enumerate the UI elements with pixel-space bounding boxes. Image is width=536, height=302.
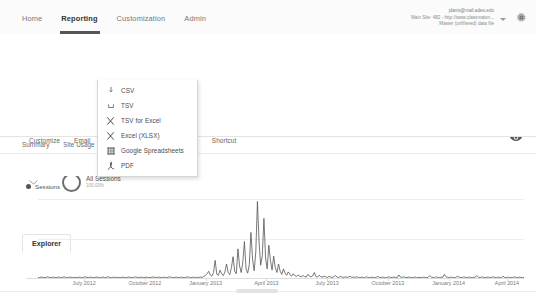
account-email: jdavis@mail.adeu.edu <box>411 8 494 14</box>
menu-item-excel-xlsx[interactable]: Excel (XLSX) <box>98 128 197 143</box>
x-axis-tick <box>206 278 207 281</box>
x-axis-tick <box>327 278 328 281</box>
menu-item-tsv[interactable]: TSV <box>98 98 197 113</box>
menu-item-csv-label: CSV <box>121 87 134 94</box>
chevron-down-icon[interactable] <box>500 18 506 21</box>
x-axis-tick <box>449 278 450 281</box>
excel-x-icon <box>104 115 117 126</box>
page-title-row: New vs Returning Apr 21, 2012 - May 21, … <box>0 34 536 64</box>
menu-item-google-spreadsheets-label: Google Spreadsheets <box>121 147 184 154</box>
nav-link-customization[interactable]: Customization <box>117 14 166 23</box>
primary-nav-links: Home Reporting Customization Admin <box>22 14 206 23</box>
report-toolbar: Customize Email Export Add to Dashboard … <box>0 64 536 84</box>
menu-item-tsv-for-excel[interactable]: TSV for Excel <box>98 113 197 128</box>
export-dropdown-menu: CSV TSV TSV for Excel Excel (XLSX) <box>97 80 198 177</box>
menu-item-excel-xlsx-label: Excel (XLSX) <box>121 132 160 139</box>
top-navigation-bar: Home Reporting Customization Admin jdavi… <box>0 0 536 35</box>
menu-item-csv[interactable]: CSV <box>98 83 197 98</box>
subtab-summary[interactable]: Summary <box>22 141 49 148</box>
account-property: Main Site: 482 - http://www.classmaton..… <box>411 15 494 21</box>
nav-link-home[interactable]: Home <box>22 14 42 23</box>
chart-controls: Sessions vs. Day Week Month <box>0 154 536 176</box>
menu-item-pdf[interactable]: PDF <box>98 158 197 173</box>
menu-item-pdf-label: PDF <box>121 162 134 169</box>
segment-percent: 100.00% <box>86 182 121 189</box>
chart-legend: Sessions <box>26 183 60 190</box>
google-sheets-icon <box>104 145 117 156</box>
segment-bar: All Sessions 100.00% <box>0 83 536 117</box>
menu-item-tsv-for-excel-label: TSV for Excel <box>121 117 161 124</box>
nav-link-admin[interactable]: Admin <box>184 14 206 23</box>
x-axis-tick <box>145 278 146 281</box>
legend-color-swatch <box>26 184 31 189</box>
excel-x-icon <box>104 130 117 141</box>
account-info[interactable]: jdavis@mail.adeu.edu Main Site: 482 - ht… <box>411 8 494 28</box>
csv-file-icon <box>104 85 117 96</box>
legend-label: Sessions <box>35 183 60 190</box>
x-axis-tick <box>84 278 85 281</box>
explorer-tab-bar: Explorer <box>0 116 536 137</box>
segment-label[interactable]: All Sessions 100.00% <box>86 175 121 189</box>
x-axis-tick <box>266 278 267 281</box>
account-view: Master (unfiltered) data file <box>411 21 494 27</box>
menu-item-google-spreadsheets[interactable]: Google Spreadsheets <box>98 143 197 158</box>
nav-link-reporting[interactable]: Reporting <box>61 14 97 23</box>
analytics-report-page: Home Reporting Customization Admin jdavi… <box>0 0 536 302</box>
menu-item-tsv-label: TSV <box>121 102 134 109</box>
subtab-site-usage[interactable]: Site Usage <box>63 141 94 148</box>
tsv-file-icon <box>104 100 117 111</box>
explorer-divider <box>0 136 536 137</box>
x-axis-tick <box>507 278 508 281</box>
pdf-icon <box>104 160 117 171</box>
gear-icon[interactable] <box>516 12 527 23</box>
sessions-line-series <box>0 192 536 278</box>
x-axis-tick <box>388 278 389 281</box>
horizontal-scrollbar[interactable] <box>236 289 278 293</box>
